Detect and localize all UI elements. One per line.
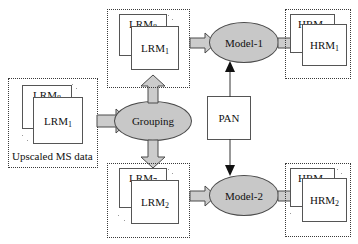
arrow-pan-to-model1 <box>223 61 237 97</box>
speck-decor <box>172 19 173 20</box>
input-group-caption: Upscaled MS data <box>12 150 93 162</box>
diagram-canvas: LRM8 LRM1 Upscaled MS data Grouping LRM8… <box>0 0 358 244</box>
arrow-pan-to-model2 <box>223 139 237 177</box>
speck-decor <box>27 140 28 141</box>
pan-node-label: PAN <box>219 112 240 124</box>
speck-decor <box>168 15 169 16</box>
grouping-node-label: Grouping <box>132 115 174 127</box>
pan-node[interactable]: PAN <box>207 96 251 140</box>
speck-decor <box>72 84 73 85</box>
bottom-hrm-box-front-label: HRM2 <box>303 195 346 206</box>
grouping-node[interactable]: Grouping <box>114 101 192 141</box>
bottom-lrm-box-front-label: LRM2 <box>132 197 178 208</box>
speck-decor <box>168 169 169 170</box>
bottom-lrm-box-front: LRM2 <box>131 180 179 224</box>
model-2-label: Model-2 <box>225 190 263 202</box>
speck-decor <box>22 135 23 136</box>
speck-decor <box>172 173 173 174</box>
model-1-node[interactable]: Model-1 <box>209 22 279 63</box>
speck-decor <box>341 173 342 174</box>
model-2-node[interactable]: Model-2 <box>209 175 279 216</box>
speck-decor <box>337 169 338 170</box>
speck-decor <box>118 215 119 216</box>
speck-decor <box>290 213 291 214</box>
top-hrm-box-front: HRM1 <box>302 24 347 66</box>
top-lrm-box-front: LRM1 <box>131 26 179 70</box>
input-box-front: LRM1 <box>33 97 83 144</box>
model-1-label: Model-1 <box>225 37 263 49</box>
top-hrm-box-front-label: HRM1 <box>303 40 346 51</box>
input-box-front-label: LRM1 <box>34 115 82 126</box>
speck-decor <box>124 220 125 221</box>
speck-decor <box>76 88 77 89</box>
top-lrm-box-front-label: LRM1 <box>132 43 178 54</box>
bottom-hrm-box-front: HRM2 <box>302 178 347 222</box>
